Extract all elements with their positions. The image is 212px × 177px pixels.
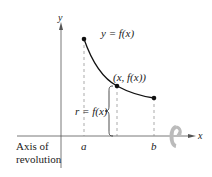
axis-of-revolution-label-line1: Axis of [16,141,49,152]
axis-of-revolution-label-line2: revolution [16,154,61,165]
point-label: (x, f(x)) [113,72,146,83]
rotation-arrow-icon [172,127,184,146]
y-axis-arrow-icon [59,22,63,30]
radius-label: r = f(x) [75,106,107,117]
x-axis-label: x [198,131,202,141]
tick-label-a: a [81,141,87,152]
tick-label-b: b [151,141,157,152]
point-x-fx [115,84,120,89]
curve-label: y = f(x) [101,28,134,39]
x-axis-arrow-icon [188,134,196,138]
point-a [82,37,87,42]
y-axis-label: y [58,13,62,23]
curve-fx [84,39,154,98]
point-b [152,96,157,101]
